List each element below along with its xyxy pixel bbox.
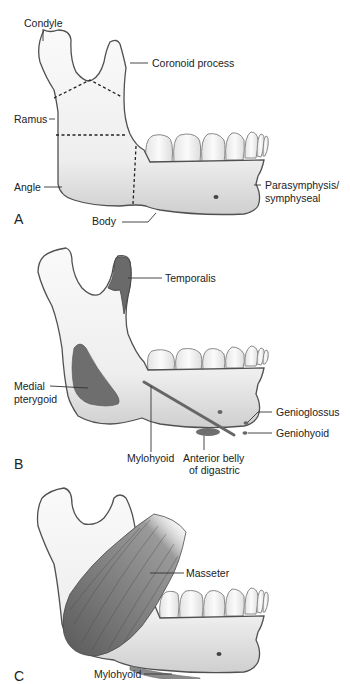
label-pterygoid: pterygoid bbox=[14, 393, 57, 405]
label-mylohyoid-c: Mylohyoid bbox=[94, 668, 141, 680]
panel-c-masseter: Masseter Mylohyoid C bbox=[0, 474, 350, 679]
label-mylohyoid-b: Mylohyoid bbox=[127, 452, 174, 464]
teeth-a bbox=[146, 132, 269, 162]
panel-letter-a: A bbox=[14, 211, 23, 227]
panel-b-muscle-attachments: Temporalis Medial pterygoid Genioglossus… bbox=[0, 228, 350, 474]
panel-a-mandible-regions: Condyle Coronoid process Ramus Angle Bod… bbox=[0, 0, 350, 228]
label-coronoid-process: Coronoid process bbox=[152, 57, 234, 69]
label-body: Body bbox=[92, 215, 116, 227]
geniohyoid-attachment bbox=[243, 431, 248, 435]
panel-letter-b: B bbox=[14, 456, 23, 472]
mental-foramen-b bbox=[218, 410, 223, 414]
anterior-belly-digastric-attachment bbox=[196, 428, 220, 436]
teeth-b bbox=[148, 346, 269, 370]
label-temporalis: Temporalis bbox=[165, 272, 216, 284]
label-masseter: Masseter bbox=[186, 567, 229, 579]
teeth-c bbox=[160, 588, 269, 618]
label-medial: Medial bbox=[14, 380, 45, 392]
label-condyle: Condyle bbox=[24, 17, 63, 29]
panel-letter-c: C bbox=[14, 668, 24, 684]
mental-foramen-c bbox=[217, 652, 222, 656]
label-geniohyoid: Geniohyoid bbox=[276, 427, 329, 439]
label-anterior-belly: Anterior belly bbox=[183, 452, 244, 464]
label-ramus: Ramus bbox=[14, 113, 47, 125]
label-symphyseal: symphyseal bbox=[265, 192, 320, 204]
mental-foramen bbox=[214, 195, 219, 199]
label-parasymphysis: Parasymphysis/ bbox=[265, 179, 339, 191]
label-angle: Angle bbox=[14, 181, 41, 193]
mandible-illustration-c bbox=[0, 474, 350, 679]
label-genioglossus: Genioglossus bbox=[276, 406, 340, 418]
